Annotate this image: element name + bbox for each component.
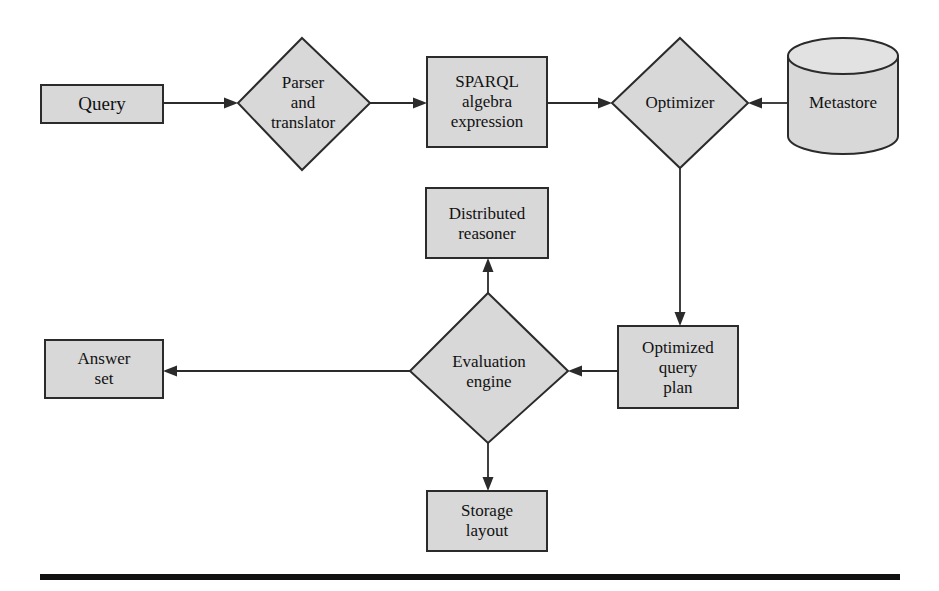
node-storage-layout[interactable] — [427, 491, 547, 551]
node-evaluation-engine[interactable] — [410, 293, 568, 443]
edge-query-to-parser — [163, 98, 238, 109]
node-optimized-query-plan[interactable] — [618, 326, 738, 408]
edge-parser-to-sparql — [370, 98, 427, 109]
node-metastore[interactable] — [788, 38, 898, 154]
node-sparql-algebra-expression[interactable] — [427, 57, 547, 147]
flowchart-figure: Query Parser and translator SPARQL algeb… — [0, 0, 939, 591]
edge-optimized-query-plan-to-evaluation-engine — [568, 366, 618, 377]
edge-optimizer-to-optimized-query-plan — [675, 168, 686, 326]
edge-evaluation-engine-to-distributed-reasoner — [483, 258, 494, 293]
node-answer-set[interactable] — [45, 340, 163, 398]
flowchart-canvas — [0, 0, 939, 591]
node-query[interactable] — [41, 85, 163, 123]
edge-evaluation-engine-to-answer-set — [163, 366, 410, 377]
edge-evaluation-engine-to-storage-layout — [483, 443, 494, 491]
node-optimizer[interactable] — [612, 38, 748, 168]
bottom-rule — [40, 574, 900, 580]
edge-sparql-to-optimizer — [547, 98, 612, 109]
node-distributed-reasoner[interactable] — [426, 188, 548, 258]
edge-metastore-to-optimizer — [748, 98, 788, 109]
node-parser-and-translator[interactable] — [238, 38, 370, 170]
